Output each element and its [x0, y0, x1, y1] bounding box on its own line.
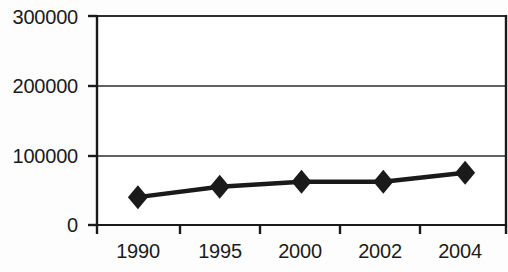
line-chart: 300000 200000 100000 0 1990 1995 2000 20…: [0, 0, 508, 272]
x-axis-ticks: [97, 225, 506, 234]
y-axis-ticks: [88, 16, 97, 225]
plot-area: [0, 0, 508, 272]
